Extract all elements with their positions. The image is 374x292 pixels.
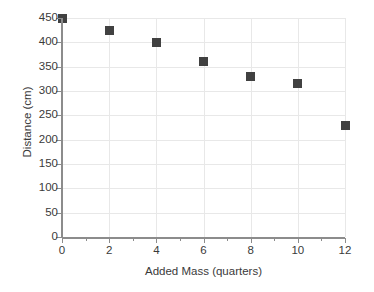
data-point [246,72,255,81]
x-axis-tick [204,238,205,243]
x-axis-tick-label: 4 [141,245,171,257]
y-axis-tick-label: 200 [18,134,58,146]
data-point [199,57,208,66]
x-axis-tick-label: 2 [94,245,124,257]
x-axis-tick [62,238,63,243]
x-axis-minor-tick [321,238,322,241]
chart-title [0,0,374,3]
data-point [105,26,114,35]
y-axis-tick-label: 350 [18,61,58,73]
gridline-vertical [109,18,110,237]
x-axis-tick-label: 6 [189,245,219,257]
gridline-vertical [156,18,157,237]
data-point [152,38,161,47]
x-axis-tick [298,238,299,243]
data-point [341,121,350,130]
x-axis-tick [156,238,157,243]
x-axis-tick-label: 10 [283,245,313,257]
x-axis-tick-label: 0 [47,245,77,257]
x-axis-minor-tick [274,238,275,241]
scatter-chart: Added Mass (quarters) Distance (cm) 0501… [0,0,374,292]
y-axis-tick-label: 250 [18,109,58,121]
y-axis-tick-label: 150 [18,158,58,170]
x-axis-minor-tick [86,238,87,241]
gridline-vertical [204,18,205,237]
y-axis-tick-label: 450 [18,12,58,24]
x-axis-tick [251,238,252,243]
plot-area [62,18,345,237]
y-axis-tick-label: 400 [18,36,58,48]
x-axis-tick [109,238,110,243]
y-axis-tick-label: 100 [18,182,58,194]
x-axis-minor-tick [180,238,181,241]
y-axis-tick-label: 0 [18,231,58,243]
y-axis-tick-label: 300 [18,85,58,97]
gridline-vertical [251,18,252,237]
data-point [293,79,302,88]
x-axis-tick [345,238,346,243]
y-axis-tick-label: 50 [18,207,58,219]
x-axis-tick-label: 8 [236,245,266,257]
gridline-vertical [298,18,299,237]
x-axis-tick-label: 12 [330,245,360,257]
x-axis-minor-tick [133,238,134,241]
x-axis-minor-tick [227,238,228,241]
y-axis-line [61,18,63,238]
x-axis-title: Added Mass (quarters) [62,265,345,277]
